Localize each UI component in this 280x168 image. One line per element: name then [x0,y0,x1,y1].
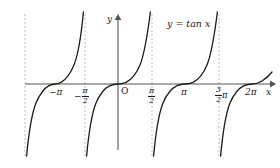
tick-label-minus-pi-over-2: −π2 [74,87,89,105]
fraction-denominator: 2 [148,97,155,106]
origin-label: O [121,87,128,96]
tick-label-minus-pi: −π [49,88,62,97]
tick-label-pi: π [181,88,187,97]
tan-branch-two-pi [221,72,272,156]
plot-canvas [0,0,280,168]
tick-label-three-pi-over-2: 32π [215,86,228,104]
minus-sign: − [74,92,82,101]
pi-symbol: π [222,91,228,100]
y-axis [115,14,122,150]
tan-function-figure: y = tan x y x O −π −π2 π2 π 32π 2π [0,0,280,168]
tick-label-pi-over-2: π2 [148,87,155,105]
curve-title-label: y = tan x [167,19,210,29]
x-axis-label: x [266,88,271,97]
y-axis-arrowhead [115,14,122,20]
fraction-pi-over-2: π2 [148,87,155,105]
asymptote-group [25,14,219,156]
fraction-pi-over-2: π2 [82,87,89,105]
y-axis-label: y [107,15,112,24]
tick-label-two-pi: 2π [245,88,257,97]
fraction-denominator: 2 [82,97,89,106]
